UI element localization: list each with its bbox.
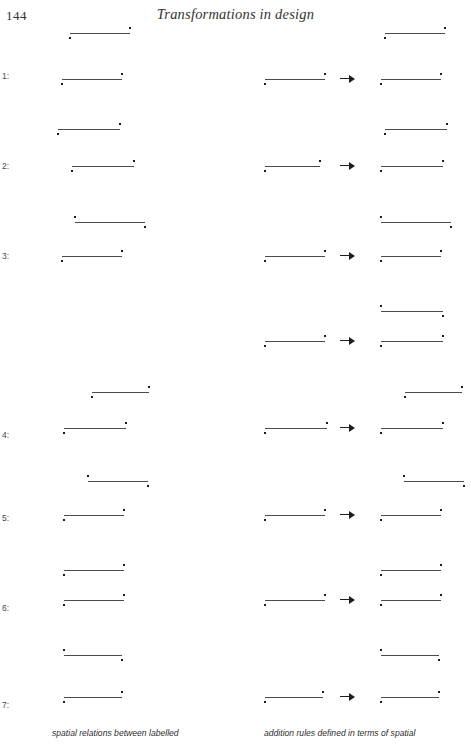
- right-arrow-icon: [340, 74, 355, 83]
- line-segment: [70, 33, 130, 34]
- line-segment: [75, 222, 145, 223]
- line-segment: [404, 481, 464, 482]
- line-segment: [381, 570, 441, 571]
- label-dot-lower: [380, 432, 382, 434]
- line-segment: [64, 697, 122, 698]
- label-dot-upper: [129, 27, 131, 29]
- label-dot-upper: [440, 564, 442, 566]
- label-dot-upper: [380, 305, 382, 307]
- right-arrow-icon: [340, 692, 355, 701]
- label-dot-lower: [264, 170, 266, 172]
- line-segment: [381, 222, 451, 223]
- label-dot-upper: [121, 691, 123, 693]
- label-dot-upper: [403, 475, 405, 477]
- line-segment: [385, 33, 445, 34]
- running-head: Transformations in design: [0, 6, 471, 23]
- line-segment: [62, 79, 122, 80]
- label-dot-upper: [123, 594, 125, 596]
- line-segment: [381, 697, 439, 698]
- row-label-7: 6:: [2, 603, 9, 613]
- arrow-head: [349, 75, 355, 83]
- label-dot-lower: [380, 604, 382, 606]
- label-dot-upper: [121, 250, 123, 252]
- label-dot-lower: [442, 315, 444, 317]
- right-arrow-icon: [340, 595, 355, 604]
- label-dot-lower: [450, 226, 452, 228]
- right-arrow-icon: [340, 161, 355, 170]
- line-segment: [381, 311, 443, 312]
- label-dot-upper: [63, 649, 65, 651]
- label-dot-upper: [444, 27, 446, 29]
- label-dot-lower: [63, 432, 65, 434]
- line-segment: [265, 428, 327, 429]
- line-segment: [72, 166, 134, 167]
- label-dot-upper: [87, 475, 89, 477]
- line-segment: [64, 655, 122, 656]
- label-dot-lower: [57, 133, 59, 135]
- arrow-head: [349, 693, 355, 701]
- arrow-head: [349, 596, 355, 604]
- label-dot-lower: [463, 485, 465, 487]
- right-arrow-icon: [340, 510, 355, 519]
- row-label-2: 2:: [2, 161, 9, 171]
- label-dot-upper: [380, 649, 382, 651]
- arrow-head: [349, 162, 355, 170]
- label-dot-upper: [324, 509, 326, 511]
- label-dot-upper: [461, 386, 463, 388]
- line-segment: [265, 256, 325, 257]
- label-dot-upper: [324, 73, 326, 75]
- label-dot-upper: [322, 691, 324, 693]
- line-segment: [62, 256, 122, 257]
- label-dot-lower: [380, 519, 382, 521]
- label-dot-lower: [147, 485, 149, 487]
- label-dot-lower: [264, 432, 266, 434]
- label-dot-lower: [380, 170, 382, 172]
- label-dot-upper: [442, 160, 444, 162]
- line-segment: [265, 341, 325, 342]
- label-dot-upper: [119, 123, 121, 125]
- label-dot-upper: [123, 564, 125, 566]
- label-dot-upper: [442, 335, 444, 337]
- label-dot-lower: [264, 83, 266, 85]
- line-segment: [381, 428, 443, 429]
- label-dot-lower: [404, 396, 406, 398]
- label-dot-upper: [440, 509, 442, 511]
- caption-right: addition rules defined in terms of spati…: [264, 728, 415, 738]
- line-segment: [64, 600, 124, 601]
- label-dot-lower: [91, 396, 93, 398]
- row-label-3: 3:: [2, 251, 9, 261]
- label-dot-lower: [380, 83, 382, 85]
- label-dot-lower: [63, 519, 65, 521]
- label-dot-lower: [63, 604, 65, 606]
- label-dot-upper: [125, 422, 127, 424]
- label-dot-upper: [74, 216, 76, 218]
- label-dot-lower: [264, 345, 266, 347]
- label-dot-upper: [440, 250, 442, 252]
- label-dot-upper: [133, 160, 135, 162]
- arrow-head: [349, 337, 355, 345]
- label-dot-upper: [440, 594, 442, 596]
- row-label-1: 1:: [2, 71, 9, 81]
- line-segment: [265, 697, 323, 698]
- label-dot-lower: [264, 260, 266, 262]
- line-segment: [265, 79, 325, 80]
- label-dot-lower: [121, 659, 123, 661]
- line-segment: [92, 392, 149, 393]
- page-canvas: 144 Transformations in design 1:2:3:4:5:…: [0, 0, 471, 746]
- label-dot-upper: [324, 250, 326, 252]
- line-segment: [58, 129, 120, 130]
- label-dot-lower: [380, 345, 382, 347]
- label-dot-lower: [61, 83, 63, 85]
- line-segment: [381, 515, 441, 516]
- label-dot-upper: [438, 691, 440, 693]
- line-segment: [381, 79, 441, 80]
- line-segment: [265, 515, 325, 516]
- label-dot-lower: [61, 260, 63, 262]
- label-dot-upper: [148, 386, 150, 388]
- label-dot-lower: [438, 659, 440, 661]
- label-dot-upper: [440, 73, 442, 75]
- label-dot-lower: [264, 519, 266, 521]
- label-dot-lower: [384, 37, 386, 39]
- label-dot-lower: [384, 133, 386, 135]
- line-segment: [265, 166, 320, 167]
